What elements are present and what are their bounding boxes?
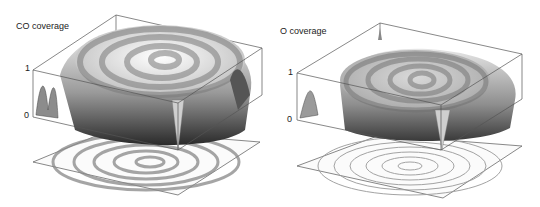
- surface-co: [36, 25, 251, 150]
- z-tick-0: 0: [287, 114, 292, 124]
- panel-title: O coverage: [280, 26, 327, 36]
- z-tick-1: 1: [25, 63, 30, 73]
- z-tick-1: 1: [288, 67, 293, 77]
- z-tick-0: 0: [24, 110, 29, 120]
- surface-plot-co: [0, 0, 270, 207]
- panel-co-coverage: CO coverage 1 0: [0, 0, 270, 207]
- panel-title: CO coverage: [16, 21, 69, 31]
- panel-o-coverage: O coverage 1 0: [270, 0, 540, 207]
- contour-plane: [297, 135, 522, 198]
- surface-o: [300, 28, 516, 150]
